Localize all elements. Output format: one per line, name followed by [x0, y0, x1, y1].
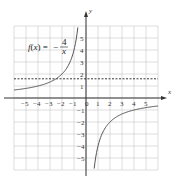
y-tick-label: 2 [80, 71, 84, 79]
y-tick-label: −4 [77, 143, 85, 151]
function-graph: −5−4−3−2−1012345 54321−1−2−3−4−5 x y f(x… [0, 0, 177, 183]
function-label-denominator: x [61, 46, 66, 56]
x-tick-labels: −5−4−3−2−1012345 [21, 100, 148, 108]
x-tick-label: −3 [45, 100, 53, 108]
y-tick-label: −2 [77, 119, 85, 127]
function-label-name: f(x) = [28, 42, 48, 52]
y-tick-label: −1 [77, 107, 85, 115]
x-axis-label: x [167, 88, 172, 96]
y-axis-arrow-icon [84, 11, 88, 17]
function-label-sign: − [53, 42, 58, 52]
x-tick-label: 1 [96, 100, 100, 108]
curve-left-branch [14, 27, 78, 90]
y-tick-label: 3 [80, 59, 84, 67]
y-tick-label: 4 [80, 47, 84, 55]
x-tick-label: 3 [120, 100, 124, 108]
x-axis-arrow-icon [161, 96, 167, 100]
y-tick-label: 5 [80, 35, 84, 43]
x-tick-label: −2 [57, 100, 65, 108]
y-tick-label: 1 [80, 83, 84, 91]
x-tick-label: −5 [21, 100, 29, 108]
y-tick-label: −3 [77, 131, 85, 139]
curve-right-branch [94, 106, 158, 169]
x-tick-label: 5 [144, 100, 148, 108]
x-tick-label: −1 [69, 100, 77, 108]
x-tick-label: 4 [132, 100, 136, 108]
axes [4, 11, 167, 176]
y-tick-label: −5 [77, 155, 85, 163]
y-axis-label: y [88, 7, 93, 15]
x-tick-label: −4 [33, 100, 41, 108]
function-label: f(x) = − 4 x [28, 37, 68, 56]
x-tick-label: 0 [85, 100, 89, 108]
x-tick-label: 2 [108, 100, 112, 108]
y-tick-labels: 54321−1−2−3−4−5 [77, 35, 85, 163]
